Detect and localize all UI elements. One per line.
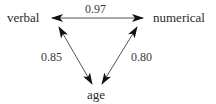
node-verbal: verbal [7,11,39,24]
edge-label-verbal-numerical: 0.97 [85,3,106,15]
edge-label-verbal-age: 0.85 [41,51,62,63]
edge-verbal-age [59,27,92,84]
edge-label-numerical-age: 0.80 [131,51,152,63]
node-age: age [87,88,105,101]
node-numerical: numerical [153,11,205,24]
